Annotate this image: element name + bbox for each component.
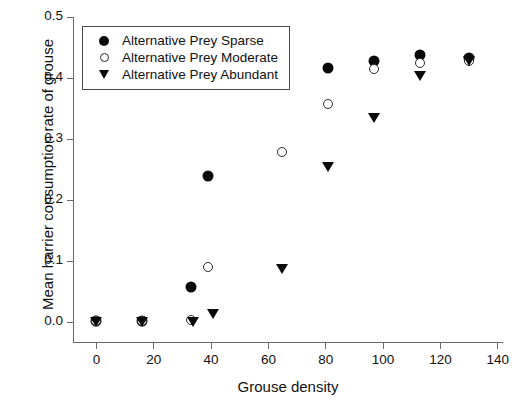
y-tick: 0.2 — [67, 200, 73, 201]
y-tick-label: 0.1 — [44, 252, 63, 267]
x-tick-label: 100 — [372, 352, 395, 367]
y-tick-label: 0.3 — [44, 130, 63, 145]
x-axis-title: Grouse density — [73, 378, 503, 395]
data-point — [207, 309, 219, 319]
y-tick: 0.0 — [67, 322, 73, 323]
data-point — [415, 58, 425, 68]
filled-circle-icon — [99, 36, 109, 46]
y-tick-label: 0.4 — [44, 69, 63, 84]
y-tick: 0.3 — [67, 139, 73, 140]
y-axis-line — [73, 17, 74, 343]
x-tick-label: 40 — [204, 352, 219, 367]
x-tick: 100 — [383, 343, 384, 349]
y-axis-title: Mean harrier consumption rate of grouse — [39, 10, 56, 340]
data-point — [414, 71, 426, 81]
legend-label: Alternative Prey Moderate — [116, 50, 278, 65]
x-tick: 20 — [153, 343, 154, 349]
data-point — [277, 147, 287, 157]
legend-item: Alternative Prey Abundant — [92, 66, 278, 83]
data-point — [276, 264, 288, 274]
data-point — [368, 113, 380, 123]
x-tick: 80 — [325, 343, 326, 349]
x-tick: 60 — [268, 343, 269, 349]
y-tick-label: 0.0 — [44, 313, 63, 328]
chart-legend: Alternative Prey SparseAlternative Prey … — [82, 26, 290, 90]
x-tick-label: 140 — [487, 352, 510, 367]
y-tick: 0.4 — [67, 78, 73, 79]
legend-label: Alternative Prey Abundant — [116, 67, 278, 82]
legend-label: Alternative Prey Sparse — [116, 33, 264, 48]
x-tick-label: 20 — [146, 352, 161, 367]
scatter-chart: Mean harrier consumption rate of grouse … — [0, 0, 532, 412]
data-point — [463, 56, 475, 66]
legend-item: Alternative Prey Sparse — [92, 32, 278, 49]
data-point — [323, 62, 334, 73]
data-point — [322, 162, 334, 172]
data-point — [369, 64, 379, 74]
open-circle-icon — [100, 53, 109, 62]
y-tick: 0.1 — [67, 261, 73, 262]
x-tick: 140 — [497, 343, 498, 349]
legend-marker-icon — [92, 36, 116, 46]
x-tick: 0 — [96, 343, 97, 349]
data-point — [90, 317, 102, 327]
data-point — [187, 317, 199, 327]
triangle-down-icon — [99, 70, 109, 79]
legend-item: Alternative Prey Moderate — [92, 49, 278, 66]
x-tick-label: 60 — [261, 352, 276, 367]
legend-marker-icon — [92, 70, 116, 79]
data-point — [323, 99, 333, 109]
y-tick-label: 0.2 — [44, 191, 63, 206]
x-tick: 40 — [211, 343, 212, 349]
data-point — [185, 281, 196, 292]
data-point — [203, 262, 213, 272]
x-tick: 120 — [440, 343, 441, 349]
data-point — [136, 317, 148, 327]
x-axis-line — [73, 342, 503, 343]
legend-marker-icon — [92, 53, 116, 62]
x-tick-label: 80 — [318, 352, 333, 367]
x-tick-label: 0 — [93, 352, 101, 367]
y-tick: 0.5 — [67, 17, 73, 18]
x-tick-label: 120 — [429, 352, 452, 367]
y-tick-label: 0.5 — [44, 8, 63, 23]
data-point — [202, 171, 213, 182]
